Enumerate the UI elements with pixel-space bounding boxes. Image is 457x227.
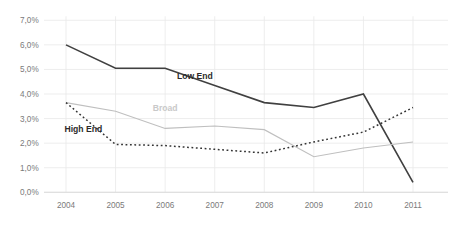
y-tick-label: 5,0%	[20, 65, 39, 74]
series-label-low-end: Low End	[177, 71, 213, 81]
y-tick-label: 6,0%	[20, 41, 39, 50]
x-tick-label: 2011	[404, 201, 422, 210]
x-tick-label: 2008	[255, 201, 274, 210]
y-tick-label: 3,0%	[20, 115, 39, 124]
x-tick-label: 2009	[305, 201, 324, 210]
y-tick-label: 1,0%	[20, 164, 39, 173]
y-tick-label: 4,0%	[20, 90, 39, 99]
x-tick-label: 2005	[106, 201, 125, 210]
series-label-broad: Broad	[153, 103, 178, 113]
chart-background	[0, 0, 457, 227]
series-label-high-end: High End	[64, 124, 102, 134]
x-tick-label: 2004	[57, 201, 76, 210]
line-chart: 0,0%1,0%2,0%3,0%4,0%5,0%6,0%7,0% 2004200…	[0, 0, 457, 227]
y-tick-label: 2,0%	[20, 139, 39, 148]
x-tick-label: 2010	[354, 201, 373, 210]
chart-canvas: 0,0%1,0%2,0%3,0%4,0%5,0%6,0%7,0% 2004200…	[0, 0, 457, 227]
x-tick-label: 2007	[206, 201, 225, 210]
y-tick-label: 0,0%	[20, 188, 39, 197]
y-tick-label: 7,0%	[20, 16, 39, 25]
x-tick-label: 2006	[156, 201, 175, 210]
